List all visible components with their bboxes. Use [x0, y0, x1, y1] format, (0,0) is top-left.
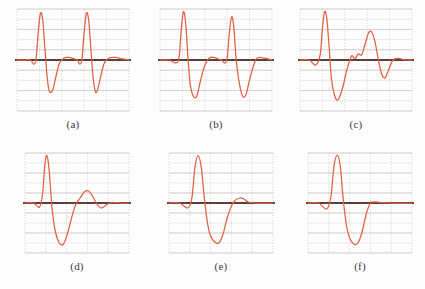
- panel-f-plot: [305, 150, 415, 256]
- panel-a-plot: [14, 6, 132, 114]
- panel-a-chart: [14, 6, 132, 114]
- panel-b-caption: (b): [157, 118, 275, 130]
- panel-d: (d): [22, 150, 132, 284]
- panel-c: (c): [297, 6, 415, 140]
- panel-a: (a): [14, 6, 132, 140]
- panel-f-caption: (f): [305, 260, 415, 272]
- panel-b-chart: [157, 6, 275, 114]
- panel-d-plot: [22, 150, 132, 256]
- panel-e-plot: [166, 150, 276, 256]
- panel-c-chart: [297, 6, 415, 114]
- panel-f-chart: [305, 150, 415, 256]
- panel-f: (f): [305, 150, 415, 284]
- panel-e-chart: [166, 150, 276, 256]
- ecg-waveform-figure: (a) (b) (c) (d) (e) (f): [0, 0, 425, 289]
- panel-c-caption: (c): [297, 118, 415, 130]
- panel-a-caption: (a): [14, 118, 132, 130]
- panel-e-caption: (e): [166, 260, 276, 272]
- panel-c-plot: [297, 6, 415, 114]
- panel-b: (b): [157, 6, 275, 140]
- panel-e: (e): [166, 150, 276, 284]
- panel-b-plot: [157, 6, 275, 114]
- panel-d-caption: (d): [22, 260, 132, 272]
- panel-d-chart: [22, 150, 132, 256]
